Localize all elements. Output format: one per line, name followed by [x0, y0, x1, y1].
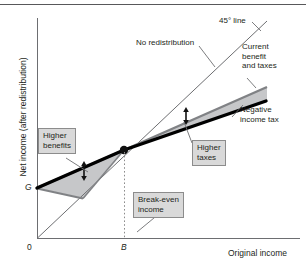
negative-income-tax-label-line-1: Negative: [240, 105, 279, 115]
no-redistribution-label: No redistribution: [136, 38, 194, 48]
current-benefit-label-line-2: benefit: [242, 52, 277, 62]
leader-current-benefit: [247, 78, 256, 88]
callout-higher-benefits: Higher benefits: [38, 128, 76, 154]
callout-higher-benefits-line-1: Higher: [43, 131, 71, 141]
y-axis-label: Net income (after redistribution): [18, 32, 28, 202]
callout-break-even-line-2: income: [138, 205, 179, 215]
callout-break-even-income: Break-even income: [133, 192, 184, 218]
callout-break-even-line-1: Break-even: [138, 195, 179, 205]
current-benefit-label-line-3: and taxes: [242, 61, 277, 71]
origin-tick-label: 0: [27, 242, 32, 252]
figure-root: Net income (after redistribution) Origin…: [0, 0, 306, 269]
forty-five-degree-label: 45° line: [219, 16, 246, 26]
y-tick-label-g: G: [25, 182, 32, 192]
x-tick-label-b: B: [121, 242, 127, 252]
x-axis-label: Original income: [228, 249, 287, 259]
current-benefit-label: Current benefit and taxes: [242, 42, 277, 71]
callout-higher-taxes-line-2: taxes: [197, 153, 221, 163]
callout-higher-taxes-line-1: Higher: [197, 143, 221, 153]
callout-higher-taxes: Higher taxes: [192, 140, 226, 166]
negative-income-tax-label-line-2: income tax: [240, 115, 279, 125]
negative-income-tax-label: Negative income tax: [240, 105, 279, 124]
leader-45-degree: [252, 22, 261, 31]
callout-higher-benefits-line-2: benefits: [43, 141, 71, 151]
current-benefit-label-line-1: Current: [242, 42, 277, 52]
leader-no-redistribution: [199, 46, 215, 67]
